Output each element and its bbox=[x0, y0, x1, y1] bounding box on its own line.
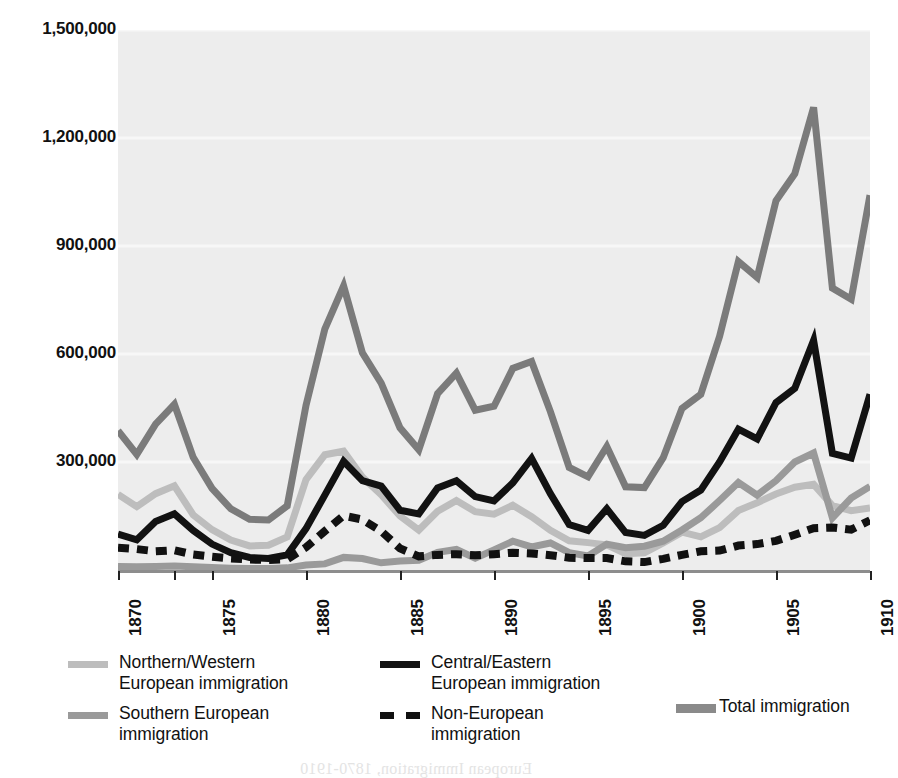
legend-label-central-eastern: Central/Eastern European immigration bbox=[431, 652, 600, 694]
x-axis-tick bbox=[776, 571, 778, 580]
legend-label-non-european: Non-European immigration bbox=[431, 703, 544, 745]
series-line-central-eastern bbox=[118, 340, 870, 558]
x-axis-tick bbox=[400, 571, 402, 580]
y-axis-tick-label: 1,500,000 bbox=[6, 19, 116, 39]
legend-item-central-eastern[interactable]: Central/Eastern European immigration bbox=[380, 652, 700, 694]
x-axis-tick bbox=[118, 571, 120, 580]
x-axis-tick-label: 1875 bbox=[220, 599, 240, 636]
x-axis-tick bbox=[306, 571, 308, 580]
legend-swatch-northern-western bbox=[68, 661, 108, 668]
x-axis-tick-label: 1890 bbox=[502, 599, 522, 636]
x-axis-tick bbox=[212, 571, 214, 580]
legend-swatch-central-eastern bbox=[380, 661, 420, 668]
legend-label-southern: Southern European immigration bbox=[119, 703, 269, 745]
legend-item-northern-western[interactable]: Northern/Western European immigration bbox=[68, 652, 368, 694]
legend-item-non-european[interactable]: Non-European immigration bbox=[380, 703, 700, 745]
x-axis-tick bbox=[588, 571, 590, 580]
chart-legend: Northern/Western European immigration So… bbox=[0, 648, 882, 758]
immigration-line-chart: 1,500,0001,200,000900,000600,000300,000 … bbox=[0, 0, 882, 640]
x-axis-tick-label: 1895 bbox=[596, 599, 616, 636]
x-axis-tick-label: 1905 bbox=[784, 599, 804, 636]
x-axis-tick bbox=[174, 571, 176, 580]
x-axis-tick bbox=[494, 571, 496, 580]
x-axis-tick-label: 1900 bbox=[690, 599, 710, 636]
legend-swatch-southern bbox=[68, 712, 108, 719]
plot-area bbox=[118, 30, 870, 570]
series-canvas bbox=[118, 30, 870, 570]
legend-item-total[interactable]: Total immigration bbox=[676, 696, 886, 717]
legend-swatch-total bbox=[676, 704, 716, 713]
x-axis-tick-label: 1885 bbox=[408, 599, 428, 636]
y-axis-tick-label: 1,200,000 bbox=[6, 127, 116, 147]
legend-swatch-non-european bbox=[380, 712, 420, 719]
legend-label-northern-western: Northern/Western European immigration bbox=[119, 652, 288, 694]
x-axis-tick bbox=[870, 571, 872, 580]
x-axis-tick-label: 1880 bbox=[314, 599, 334, 636]
y-axis-tick-label: 300,000 bbox=[6, 451, 116, 471]
x-axis-tick-label: 1910 bbox=[878, 599, 898, 636]
bleed-caption: European Immigration, 1870-1910 bbox=[300, 760, 532, 778]
series-line-total bbox=[118, 107, 870, 520]
y-axis-tick-label: 900,000 bbox=[6, 235, 116, 255]
x-axis-tick-label: 1870 bbox=[126, 599, 146, 636]
legend-label-total: Total immigration bbox=[719, 696, 850, 717]
y-axis-tick-label: 600,000 bbox=[6, 343, 116, 363]
x-axis-tick bbox=[682, 571, 684, 580]
legend-item-southern[interactable]: Southern European immigration bbox=[68, 703, 368, 745]
